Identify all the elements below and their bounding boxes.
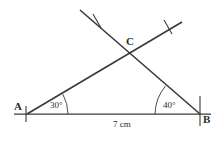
vertex-label-C: C (126, 36, 134, 47)
geometry-diagram: A B C 30° 40° 7 cm (0, 0, 224, 144)
tick-mark-left-ray-icon (93, 14, 101, 28)
vertex-label-B: B (203, 114, 210, 125)
angle-arc-A (63, 94, 68, 114)
figure-canvas (0, 0, 224, 144)
side-length-label-AB: 7 cm (113, 120, 131, 129)
ray-from-B-through-C (80, 10, 200, 114)
angle-label-B: 40° (163, 101, 176, 110)
angle-label-A: 30° (50, 101, 63, 110)
vertex-label-A: A (14, 101, 22, 112)
